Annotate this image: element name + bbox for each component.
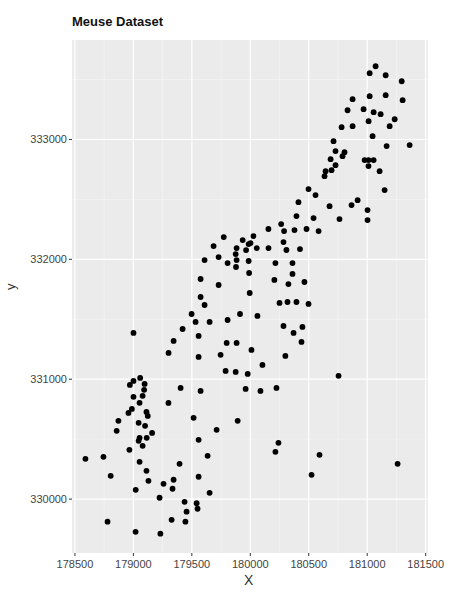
- data-point: [365, 217, 371, 223]
- data-point: [171, 477, 177, 483]
- data-point: [140, 393, 146, 399]
- x-tick-label: 179000: [115, 558, 152, 570]
- data-point: [300, 324, 306, 330]
- data-point: [249, 347, 255, 353]
- data-point: [170, 486, 176, 492]
- data-point: [202, 257, 208, 263]
- data-point: [333, 162, 339, 168]
- data-point: [126, 410, 132, 416]
- data-point: [260, 362, 266, 368]
- data-point: [371, 109, 377, 115]
- data-point: [225, 317, 231, 323]
- data-point: [246, 241, 252, 247]
- data-point: [254, 245, 260, 251]
- data-point: [316, 228, 322, 234]
- data-point: [137, 400, 143, 406]
- x-tick-label: 180000: [232, 558, 269, 570]
- data-point: [309, 472, 315, 478]
- data-point: [266, 245, 272, 251]
- data-point: [355, 197, 361, 203]
- x-tick-label: 178500: [57, 558, 94, 570]
- data-point: [224, 340, 230, 346]
- data-point: [196, 437, 202, 443]
- data-point: [137, 459, 143, 465]
- data-point: [328, 156, 334, 162]
- data-point: [313, 192, 319, 198]
- data-point: [161, 481, 167, 487]
- data-point: [382, 187, 388, 193]
- data-point: [258, 388, 264, 394]
- data-point: [171, 338, 177, 344]
- data-point: [327, 203, 333, 209]
- data-point: [127, 382, 133, 388]
- data-point: [142, 381, 148, 387]
- data-point: [294, 299, 300, 305]
- data-point: [189, 311, 195, 317]
- x-tick-label: 179500: [173, 558, 210, 570]
- data-point: [144, 468, 150, 474]
- data-point: [169, 517, 175, 523]
- data-point: [251, 233, 257, 239]
- data-point: [407, 142, 413, 148]
- data-point: [284, 247, 290, 253]
- data-point: [196, 354, 202, 360]
- data-point: [349, 202, 355, 208]
- data-point: [205, 453, 211, 459]
- data-point: [137, 435, 143, 441]
- data-point: [278, 221, 284, 227]
- data-point: [304, 226, 310, 232]
- x-tick-label: 181500: [407, 558, 444, 570]
- data-point: [193, 319, 199, 325]
- y-tick-label: 330000: [30, 493, 67, 505]
- data-point: [194, 500, 200, 506]
- data-point: [177, 461, 183, 467]
- data-point: [266, 226, 272, 232]
- data-point: [149, 430, 155, 436]
- data-point: [246, 258, 252, 264]
- data-point: [184, 509, 190, 515]
- major-gridlines: [72, 40, 428, 553]
- data-point: [142, 423, 148, 429]
- data-point: [216, 282, 222, 288]
- data-point: [323, 168, 329, 174]
- data-point: [202, 302, 208, 308]
- data-point: [166, 350, 172, 356]
- data-point: [345, 107, 351, 113]
- data-point: [273, 260, 279, 266]
- data-point: [207, 319, 213, 325]
- data-point: [195, 506, 201, 512]
- data-point: [214, 427, 220, 433]
- data-point: [243, 247, 249, 253]
- data-point: [350, 123, 356, 129]
- data-point: [322, 173, 328, 179]
- data-point: [246, 270, 252, 276]
- data-point: [276, 440, 282, 446]
- data-point: [277, 300, 283, 306]
- data-point: [225, 260, 231, 266]
- data-point: [191, 415, 197, 421]
- data-point: [384, 143, 390, 149]
- data-point: [221, 234, 227, 240]
- data-point: [336, 373, 342, 379]
- x-axis: 1785001790001795001800001805001810001815…: [57, 553, 444, 570]
- data-point: [116, 418, 122, 424]
- data-point: [145, 413, 151, 419]
- data-point: [290, 260, 296, 266]
- data-point: [198, 294, 204, 300]
- scatter-plot: 1785001790001795001800001805001810001815…: [0, 0, 462, 600]
- data-point: [395, 461, 401, 467]
- data-point: [211, 243, 217, 249]
- data-point: [196, 333, 202, 339]
- data-point: [294, 213, 300, 219]
- data-point: [286, 281, 292, 287]
- data-point: [362, 157, 368, 163]
- data-point: [247, 290, 253, 296]
- data-point: [136, 420, 142, 426]
- data-point: [127, 447, 133, 453]
- data-point: [317, 452, 323, 458]
- x-axis-label: X: [244, 572, 253, 588]
- data-point: [182, 499, 188, 505]
- x-tick-label: 180500: [290, 558, 327, 570]
- data-point: [297, 246, 303, 252]
- data-point: [198, 276, 204, 282]
